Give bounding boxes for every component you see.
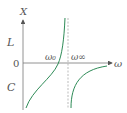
- reactance-curve-right: [71, 66, 107, 108]
- upper-region-label: L: [6, 36, 14, 49]
- origin-label: 0: [13, 58, 19, 69]
- x-axis-label: ω: [114, 58, 122, 69]
- antiresonance-label: ω∞: [71, 52, 86, 62]
- resonance-label: ω₀: [45, 52, 56, 62]
- y-axis-label: X: [19, 6, 28, 17]
- reactance-diagram: X ω L C 0 ω₀ ω∞: [0, 0, 127, 113]
- lower-region-label: C: [7, 81, 16, 94]
